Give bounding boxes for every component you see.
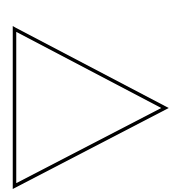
right-pointing-triangle-shape: [15, 29, 166, 186]
triangle-diagram: [0, 0, 175, 193]
diagram-canvas: [0, 0, 175, 193]
